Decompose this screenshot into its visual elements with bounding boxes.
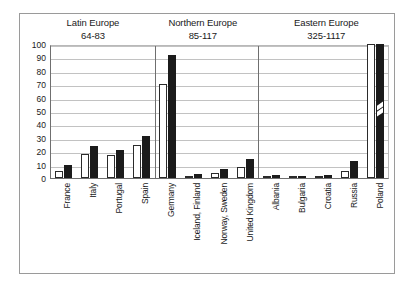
bar-group [77,46,103,178]
axis-break-slash [376,100,384,112]
y-tick-label: 20 [37,148,46,157]
axis-break-mark [367,101,375,117]
x-tick-label: Albania [272,183,281,210]
x-tick-label: Portugal [115,183,124,213]
bar-series-white [367,44,375,178]
bar-group [129,46,155,178]
y-tick-label: 30 [37,135,46,144]
x-tick-label: Russia [350,183,359,208]
y-axis: 0102030405060708090100 [24,45,46,179]
bar-group [51,46,77,178]
x-tick-label: Croatia [324,183,333,209]
axis-break-slash [376,106,384,118]
group-range: 64-83 [38,30,148,43]
bar-series-black [298,176,306,178]
bar-series-white [315,176,323,178]
plot-wrapper: 0102030405060708090100 FranceItalyPortug… [24,45,395,195]
group-header-northern-europe: Northern Europe 85-117 [148,17,258,45]
bar-group [155,46,181,178]
x-tick-label: Poland [376,183,385,209]
bar-series-white [289,176,297,178]
bar-group [103,46,129,178]
bar-series-white [159,84,167,178]
axis-break-slash [367,106,375,118]
bar-group [181,46,207,178]
bar-group [232,46,258,178]
x-tick-label: Iceland, Finland [193,183,202,241]
bar-series-black [64,165,72,178]
y-tick-label: 60 [37,94,46,103]
bar-group [336,46,362,178]
group-name: Northern Europe [148,17,258,30]
x-tick-label: Norway, Sweden [220,183,229,245]
group-separator [155,46,156,178]
group-range: 85-117 [148,30,258,43]
bar-series-white [133,145,141,179]
x-label-slot: Albania [259,181,285,261]
x-label-slot: Poland [363,181,389,261]
x-label-slot: Iceland, Finland [180,181,206,261]
x-tick-label: France [63,183,72,209]
y-tick-label: 40 [37,121,46,130]
x-tick-label: Bulgaria [298,183,307,213]
group-header-latin-europe: Latin Europe 64-83 [38,17,148,45]
bar-series-white [211,173,219,178]
x-label-slot: France [50,181,76,261]
x-tick-label: United Kingdom [246,183,255,241]
y-tick-label: 50 [37,108,46,117]
bar-series-white [263,176,271,178]
x-tick-label: Spain [141,183,150,204]
bar-group [207,46,233,178]
bar-group [258,46,284,178]
y-tick-label: 100 [32,41,46,50]
bar-series-black [90,146,98,178]
axis-break-slash [367,100,375,112]
y-tick-label: 80 [37,68,46,77]
bar-series-white [185,176,193,178]
x-label-slot: Croatia [311,181,337,261]
axis-break-mark [376,101,384,117]
bar-series-white [107,155,115,178]
bar-series-black [168,55,176,178]
chart-figure: Latin Europe 64-83 Northern Europe 85-11… [0,0,414,286]
bar-series-black [246,159,254,178]
bar-series-black [220,169,228,178]
x-label-slot: Germany [154,181,180,261]
x-label-slot: Bulgaria [285,181,311,261]
x-label-slot: Portugal [102,181,128,261]
bars-layer [51,46,388,178]
bar-series-white [81,154,89,178]
x-axis-labels: FranceItalyPortugalSpainGermanyIceland, … [50,181,389,261]
bar-series-black [142,136,150,178]
bar-series-white [55,171,63,178]
group-separator [258,46,259,178]
bar-series-black [272,175,280,178]
group-range: 325-1117 [258,30,395,43]
x-label-slot: Russia [337,181,363,261]
bar-series-white [237,167,245,178]
x-tick-label: Germany [167,183,176,217]
bar-group [362,46,388,178]
bar-group [310,46,336,178]
y-tick-label: 70 [37,81,46,90]
x-label-slot: Norway, Sweden [206,181,232,261]
group-name: Latin Europe [38,17,148,30]
y-tick-label: 0 [41,175,46,184]
bar-group [284,46,310,178]
bar-series-black [324,175,332,178]
group-header-row: Latin Europe 64-83 Northern Europe 85-11… [38,17,395,45]
bar-series-black [376,44,384,178]
plot-area [50,45,389,179]
bar-series-black [350,161,358,178]
x-label-slot: Spain [128,181,154,261]
y-tick-label: 90 [37,54,46,63]
x-label-slot: Italy [76,181,102,261]
x-label-slot: United Kingdom [233,181,259,261]
y-tick-label: 10 [37,161,46,170]
bar-series-black [116,150,124,178]
x-tick-label: Italy [89,183,98,198]
bar-series-white [341,171,349,178]
bar-series-black [194,174,202,178]
group-header-eastern-europe: Eastern Europe 325-1117 [258,17,395,45]
group-name: Eastern Europe [258,17,395,30]
